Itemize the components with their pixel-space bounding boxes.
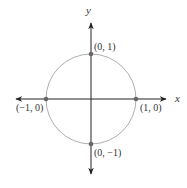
- point-1-0: [134, 97, 139, 102]
- point-label-0-1: (0, 1): [94, 42, 116, 52]
- point-0-neg1: [89, 142, 94, 147]
- y-axis-label: y: [86, 5, 91, 16]
- unit-circle-diagram: [0, 0, 187, 188]
- point-label-0-neg1: (0, −1): [94, 148, 121, 158]
- point-label-1-0: (1, 0): [140, 103, 162, 113]
- point-0-1: [89, 52, 94, 57]
- x-axis-label: x: [175, 93, 180, 104]
- point-neg1-0: [44, 97, 49, 102]
- point-label-neg1-0: (−1, 0): [16, 103, 43, 113]
